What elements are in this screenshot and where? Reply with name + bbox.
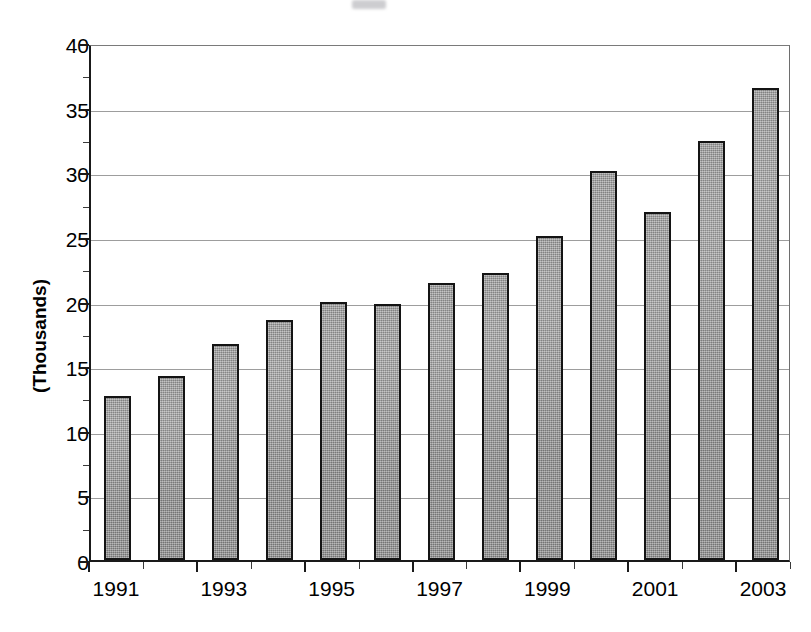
x-tick-label: 2001 <box>600 578 710 599</box>
x-tick-mark <box>735 562 737 572</box>
bar[interactable] <box>212 344 239 560</box>
gridline <box>91 175 789 176</box>
x-tick-label: 1997 <box>385 578 495 599</box>
bar[interactable] <box>590 171 617 560</box>
y-tick-mark <box>80 173 89 175</box>
x-tick-mark <box>196 562 198 572</box>
x-axis-ticks <box>89 562 790 574</box>
x-tick-mark <box>574 562 575 569</box>
bar[interactable] <box>374 304 401 560</box>
x-tick-label: 1991 <box>61 578 171 599</box>
x-tick-mark <box>627 562 629 572</box>
bar[interactable] <box>104 396 131 560</box>
bar[interactable] <box>482 273 509 560</box>
x-tick-label: 1993 <box>169 578 279 599</box>
y-tick-mark <box>80 367 89 369</box>
x-tick-mark <box>519 562 521 572</box>
bar[interactable] <box>266 320 293 560</box>
x-tick-label: 1995 <box>277 578 387 599</box>
bar[interactable] <box>644 212 671 560</box>
y-tick-mark <box>80 44 89 46</box>
x-tick-mark <box>143 562 144 569</box>
y-tick-mark <box>80 109 89 111</box>
x-tick-mark <box>790 562 791 569</box>
y-tick-mark <box>80 432 89 434</box>
y-tick-mark <box>80 303 89 305</box>
y-tick-mark <box>80 496 89 498</box>
x-tick-mark <box>466 562 467 569</box>
x-tick-mark <box>88 562 90 572</box>
bar[interactable] <box>698 141 725 560</box>
gridline <box>91 240 789 241</box>
cut-off-title-artifact <box>352 0 386 9</box>
x-tick-mark <box>251 562 252 569</box>
plot-area <box>89 45 790 562</box>
y-axis-ticks: 0510152025303540 <box>0 0 89 632</box>
x-tick-mark <box>359 562 360 569</box>
y-tick-mark <box>80 238 89 240</box>
bar[interactable] <box>536 236 563 560</box>
x-tick-mark <box>304 562 306 572</box>
bar[interactable] <box>428 283 455 560</box>
bar[interactable] <box>752 88 779 560</box>
x-tick-label: 2003 <box>708 578 811 599</box>
bar[interactable] <box>320 302 347 561</box>
x-tick-mark <box>682 562 683 569</box>
x-tick-label: 1999 <box>492 578 602 599</box>
x-tick-mark <box>412 562 414 572</box>
gridline <box>91 111 789 112</box>
x-axis-tick-labels: 1991199319951997199920012003 <box>89 578 790 612</box>
bar-chart: (Thousands) 0510152025303540 19911993199… <box>0 0 811 632</box>
bar[interactable] <box>158 376 185 560</box>
